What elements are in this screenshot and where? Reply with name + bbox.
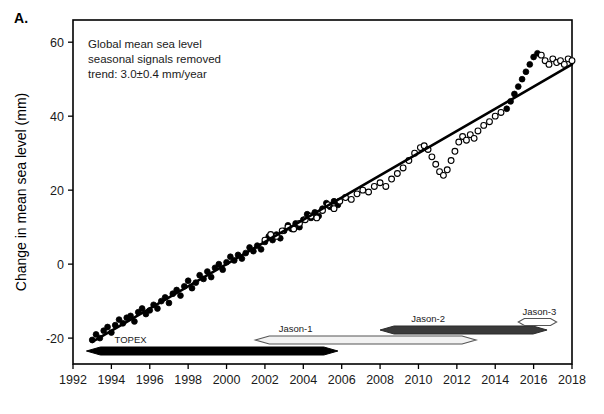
- data-point-filled: [527, 61, 533, 67]
- data-point-open: [360, 187, 366, 193]
- mission-timeline-bars: TOPEXJason-1Jason-2Jason-3: [86, 306, 556, 356]
- x-tick-label: 2018: [558, 373, 586, 387]
- mission-bar-jason-3: [518, 319, 556, 326]
- x-tick-label: 1996: [136, 373, 164, 387]
- chart-annotation: Global mean sea levelseasonal signals re…: [88, 38, 221, 80]
- data-point-open: [366, 189, 372, 195]
- data-point-open: [389, 176, 395, 182]
- x-tick-label: 2002: [251, 373, 279, 387]
- annotation-line: Global mean sea level: [88, 38, 202, 50]
- x-tick-label: 2004: [289, 373, 317, 387]
- mission-label-jason-3: Jason-3: [522, 306, 556, 317]
- y-tick-label: 0: [57, 258, 64, 272]
- data-point-open: [456, 139, 462, 145]
- data-point-open: [452, 148, 458, 154]
- data-point-open: [314, 215, 320, 221]
- x-tick-label: 1992: [59, 373, 87, 387]
- trend-line-segment: [92, 64, 572, 341]
- data-point-open: [354, 191, 360, 197]
- data-point-open: [475, 128, 481, 134]
- mission-label-jason-1: Jason-1: [279, 323, 313, 334]
- data-point-open: [429, 154, 435, 160]
- data-point-open: [492, 113, 498, 119]
- x-tick-label: 2012: [443, 373, 471, 387]
- x-tick-label: 1998: [174, 373, 202, 387]
- data-point-filled: [105, 324, 111, 330]
- annotation-line: seasonal signals removed: [88, 53, 221, 65]
- mission-bar-jason-2: [380, 326, 547, 334]
- data-point-open: [464, 137, 470, 143]
- y-axis-ticks: -200204060: [46, 36, 73, 346]
- data-point-open: [538, 52, 544, 58]
- x-axis-ticks: 1992199419961998200020022004200620082010…: [59, 364, 586, 387]
- data-point-open: [400, 165, 406, 171]
- y-axis-title-text: Change in mean sea level (mm): [13, 93, 29, 291]
- x-tick-label: 2008: [366, 373, 394, 387]
- data-point-filled: [504, 106, 510, 112]
- data-point-open: [546, 61, 552, 67]
- data-point-open: [487, 119, 493, 125]
- data-point-open: [444, 167, 450, 173]
- y-tick-label: 40: [50, 110, 64, 124]
- data-point-filled: [519, 76, 525, 82]
- figure-panel-a: A. -200204060 19921994199619982000200220…: [0, 0, 604, 414]
- data-point-open: [371, 184, 377, 190]
- data-point-open: [383, 184, 389, 190]
- data-point-open: [441, 172, 447, 178]
- mission-bar-jason-1: [255, 336, 476, 344]
- x-tick-label: 2014: [481, 373, 509, 387]
- trend-line: [92, 64, 572, 341]
- data-point-open: [348, 196, 354, 202]
- data-point-filled: [523, 69, 529, 75]
- y-tick-label: 20: [50, 184, 64, 198]
- data-point-filled: [178, 293, 184, 299]
- data-point-filled: [166, 300, 172, 306]
- data-point-filled: [258, 246, 264, 252]
- sea-level-chart: -200204060 19921994199619982000200220042…: [0, 0, 604, 414]
- data-point-open: [448, 158, 454, 164]
- mission-label-jason-2: Jason-2: [411, 313, 445, 324]
- y-axis-title: Change in mean sea level (mm): [13, 93, 29, 291]
- data-point-open: [569, 58, 575, 64]
- x-tick-label: 2000: [213, 373, 241, 387]
- data-point-open: [331, 206, 337, 212]
- x-tick-label: 2016: [520, 373, 548, 387]
- data-point-open: [471, 135, 477, 141]
- mission-label-topex: TOPEX: [115, 334, 148, 345]
- data-point-open: [481, 123, 487, 129]
- data-point-open: [377, 180, 383, 186]
- x-tick-label: 2006: [328, 373, 356, 387]
- y-tick-label: 60: [50, 36, 64, 50]
- data-series: [89, 50, 575, 342]
- x-tick-label: 1994: [97, 373, 125, 387]
- data-point-filled: [515, 84, 521, 90]
- annotation-line: trend: 3.0±0.4 mm/year: [88, 68, 207, 80]
- x-tick-label: 2010: [405, 373, 433, 387]
- data-point-open: [498, 110, 504, 116]
- y-tick-label: -20: [46, 332, 64, 346]
- data-point-filled: [185, 278, 191, 284]
- data-point-open: [394, 171, 400, 177]
- mission-bar-topex: [86, 347, 337, 355]
- data-point-open: [433, 161, 439, 167]
